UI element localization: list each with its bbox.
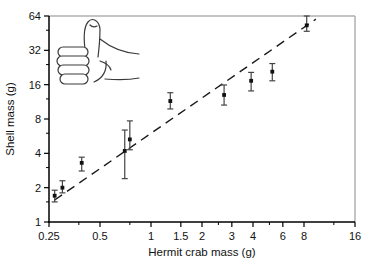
data-point-marker bbox=[270, 70, 274, 74]
y-tick-label: 32 bbox=[29, 44, 41, 56]
data-point-marker bbox=[168, 99, 172, 103]
x-tick-label: 0.25 bbox=[38, 230, 59, 242]
y-tick-label: 1 bbox=[35, 216, 41, 228]
data-point-marker bbox=[53, 194, 57, 198]
data-point-marker bbox=[128, 137, 132, 141]
x-tick-label: 3 bbox=[229, 230, 235, 242]
x-tick-label: 0.5 bbox=[92, 230, 107, 242]
y-tick-label: 64 bbox=[29, 10, 41, 22]
x-tick-label: 16 bbox=[349, 230, 361, 242]
hand-wrist-line bbox=[105, 78, 139, 80]
x-tick-label: 1 bbox=[148, 230, 154, 242]
plot-area: 0.250.511.523468161248163264Hermit crab … bbox=[4, 10, 361, 258]
y-axis-title: Shell mass (g) bbox=[4, 82, 16, 156]
data-point-marker bbox=[249, 79, 253, 83]
hand-top-line bbox=[100, 39, 139, 54]
y-tick-label: 4 bbox=[35, 147, 41, 159]
x-axis-title: Hermit crab mass (g) bbox=[148, 246, 256, 258]
x-tick-label: 1.5 bbox=[173, 230, 188, 242]
thumbs-up-icon bbox=[57, 20, 139, 84]
data-point-marker bbox=[222, 93, 226, 97]
y-tick-label: 8 bbox=[35, 113, 41, 125]
y-tick-label: 2 bbox=[35, 182, 41, 194]
data-point-marker bbox=[80, 161, 84, 165]
data-point-marker bbox=[305, 23, 309, 27]
hand-finger-4 bbox=[60, 74, 88, 84]
y-tick-label: 16 bbox=[29, 79, 41, 91]
data-point-marker bbox=[123, 149, 127, 153]
scatter-plot: 0.250.511.523468161248163264Hermit crab … bbox=[0, 0, 369, 273]
x-tick-label: 2 bbox=[199, 230, 205, 242]
x-tick-label: 8 bbox=[301, 230, 307, 242]
figure: 0.250.511.523468161248163264Hermit crab … bbox=[0, 0, 369, 273]
data-point-marker bbox=[61, 186, 65, 190]
x-tick-label: 4 bbox=[250, 230, 256, 242]
x-tick-label: 6 bbox=[280, 230, 286, 242]
